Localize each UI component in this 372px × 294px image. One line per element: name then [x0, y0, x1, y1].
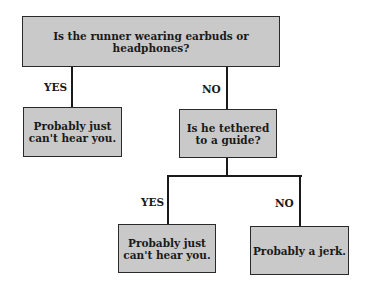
- left-result-text: Probably just can't hear you.: [29, 120, 116, 144]
- sub-no-result-box: Probably a jerk.: [250, 226, 349, 275]
- no-label: NO: [202, 83, 221, 95]
- yes-label: YES: [44, 81, 67, 93]
- middle-question-text: Is he tethered to a guide?: [187, 122, 270, 146]
- root-question-box: Is the runner wearing earbuds or headpho…: [22, 16, 280, 67]
- left-result-box: Probably just can't hear you.: [23, 107, 122, 157]
- connector-horizontal: [167, 175, 302, 177]
- sub-yes-result-box: Probably just can't hear you.: [118, 224, 216, 273]
- sub-no-label: NO: [275, 197, 294, 209]
- connector-no: [226, 67, 228, 109]
- middle-question-box: Is he tethered to a guide?: [179, 109, 277, 158]
- connector-yes: [71, 67, 73, 107]
- sub-yes-result-text: Probably just can't hear you.: [123, 237, 210, 261]
- sub-yes-label: YES: [141, 196, 164, 208]
- sub-no-result-text: Probably a jerk.: [253, 245, 346, 257]
- root-question-text: Is the runner wearing earbuds or headpho…: [23, 30, 279, 54]
- connector-sub-yes: [167, 175, 169, 224]
- connector-sub-no: [299, 175, 301, 226]
